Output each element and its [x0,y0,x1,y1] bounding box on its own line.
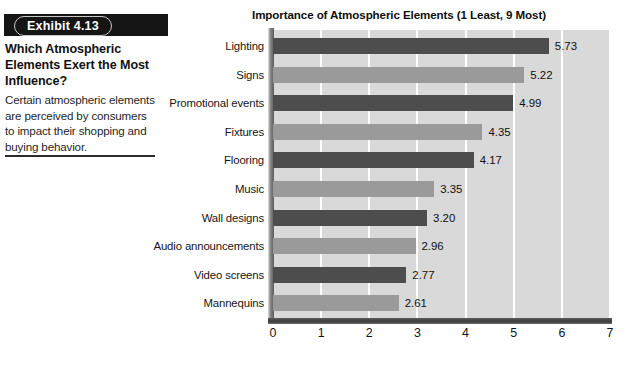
bar [273,181,434,197]
bar-row: Mannequins2.61 [0,289,642,318]
bar-row: Video screens2.77 [0,261,642,290]
bar-row: Flooring4.17 [0,146,642,175]
bar [273,267,406,283]
bar-category-label: Lighting [168,39,264,54]
x-axis-base [268,318,612,324]
x-axis-tick-label: 4 [456,326,476,340]
x-axis-tick-label: 5 [504,326,524,340]
bar [273,210,427,226]
bar-value-label: 4.99 [519,96,541,111]
bar-category-label: Music [168,182,264,197]
bar-row: Promotional events4.99 [0,89,642,118]
bar-row: Signs5.22 [0,61,642,90]
bar-category-label: Video screens [168,268,264,283]
bar [273,95,513,111]
bar-row: Audio announcements2.96 [0,232,642,261]
bar-category-label: Mannequins [168,296,264,311]
bar-category-label: Audio announcements [150,239,264,254]
bar-value-label: 3.35 [440,182,462,197]
x-axis-tick-label: 1 [311,326,331,340]
x-axis-tick-label: 0 [263,326,283,340]
bar [273,67,524,83]
bar-row: Wall designs3.20 [0,204,642,233]
bar-category-label: Wall designs [168,211,264,226]
bar-value-label: 5.22 [530,68,552,83]
bar [273,295,399,311]
bar-value-label: 4.17 [480,153,502,168]
bar-value-label: 4.35 [488,125,510,140]
bar-category-label: Fixtures [168,125,264,140]
chart-title: Importance of Atmospheric Elements (1 Le… [168,8,630,21]
bar [273,38,549,54]
bar [273,152,474,168]
bar [273,238,416,254]
x-axis-tick-label: 3 [407,326,427,340]
bar-value-label: 2.77 [412,268,434,283]
bar-value-label: 2.61 [405,296,427,311]
bar-row: Music3.35 [0,175,642,204]
x-axis-tick-label: 2 [359,326,379,340]
x-axis-tick-label: 7 [600,326,620,340]
bar [273,124,482,140]
x-axis-tick-labels: 01234567 [0,326,642,346]
bar-value-label: 2.96 [422,239,444,254]
bar-row: Fixtures4.35 [0,118,642,147]
x-axis-tick-label: 6 [552,326,572,340]
bar-category-label: Promotional events [150,96,264,111]
bar-value-label: 3.20 [433,211,455,226]
bar-value-label: 5.73 [555,39,577,54]
bar-category-label: Signs [168,68,264,83]
bar-category-label: Flooring [168,153,264,168]
bar-row: Lighting5.73 [0,32,642,61]
